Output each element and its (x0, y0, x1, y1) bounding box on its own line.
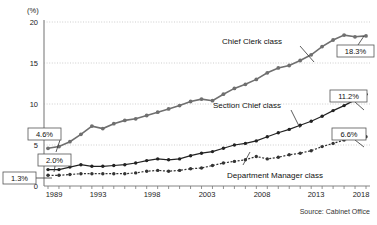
data-point (254, 78, 258, 82)
data-point (233, 143, 236, 146)
data-point (145, 159, 148, 162)
data-point (287, 64, 291, 68)
data-point (277, 131, 280, 134)
y-tick-label-10: 10 (30, 100, 38, 109)
data-point (265, 71, 269, 75)
data-point (244, 142, 247, 145)
data-point (68, 173, 71, 176)
callout-label-11-2: 11.2% (338, 92, 359, 101)
data-point (46, 146, 50, 150)
data-point (331, 109, 334, 112)
data-point (123, 172, 126, 175)
data-point (101, 172, 104, 175)
line-chart-svg: (%) 20 15 10 5 0 1989 1993 1998 2003 200… (0, 0, 377, 225)
data-point (79, 132, 83, 136)
data-point (309, 53, 313, 57)
x-tick-label-2003: 2003 (199, 190, 216, 199)
y-axis-unit-label: (%) (27, 6, 39, 15)
callout-label-4-6: 4.6% (36, 130, 53, 139)
y-tick-label-15: 15 (30, 59, 38, 68)
data-point (123, 119, 127, 123)
data-point (200, 152, 203, 155)
callout-label-2-0: 2.0% (46, 156, 63, 165)
x-tick-label-2013: 2013 (308, 190, 325, 199)
data-point (46, 174, 49, 177)
data-point (167, 107, 171, 111)
data-point (266, 135, 269, 138)
data-point (320, 45, 324, 49)
callout-label-6-6: 6.6% (340, 130, 357, 139)
data-point (101, 165, 104, 168)
data-point (145, 114, 149, 118)
data-point (342, 33, 346, 37)
data-point (320, 115, 323, 118)
data-point (299, 152, 302, 155)
data-point (46, 168, 49, 171)
data-point (189, 167, 192, 170)
data-point (310, 149, 313, 152)
data-point (222, 161, 225, 164)
series-label-department-manager: Department Manager class (227, 171, 323, 180)
chart-container: (%) 20 15 10 5 0 1989 1993 1998 2003 200… (0, 0, 377, 225)
data-point (288, 128, 291, 131)
data-point (233, 87, 237, 91)
data-point (167, 158, 170, 161)
x-tick-label-1998: 1998 (144, 190, 161, 199)
data-point (112, 172, 115, 175)
data-point (222, 92, 226, 96)
x-tick-label-2018: 2018 (353, 190, 370, 199)
x-tick-label-1989: 1989 (46, 190, 63, 199)
data-point (68, 140, 72, 144)
data-point (57, 174, 60, 177)
data-point (90, 172, 93, 175)
data-point (79, 163, 82, 166)
data-point (364, 34, 368, 38)
data-point (211, 164, 214, 167)
data-point (134, 161, 137, 164)
callout-label-1-3: 1.3% (11, 174, 28, 183)
data-point (222, 147, 225, 150)
data-point (255, 155, 258, 158)
y-tick-label-20: 20 (30, 18, 38, 27)
callout-label-18-3: 18.3% (345, 47, 367, 56)
data-point (310, 120, 313, 123)
data-point (112, 164, 115, 167)
series-label-chief-clerk: Chief Clerk class (222, 37, 282, 46)
data-point (353, 35, 357, 39)
data-point (178, 157, 181, 160)
data-point (200, 166, 203, 169)
series-label-section-chief: Section Chief class (213, 101, 281, 110)
data-point (156, 110, 160, 114)
data-point (331, 142, 334, 145)
data-point (134, 171, 137, 174)
data-point (145, 170, 148, 173)
data-point (266, 157, 269, 160)
x-tick-label-2008: 2008 (254, 190, 271, 199)
data-point (189, 154, 192, 157)
data-point (167, 170, 170, 173)
data-point (90, 165, 93, 168)
data-point (255, 139, 258, 142)
data-point (211, 150, 214, 153)
data-point (342, 104, 345, 107)
data-point (244, 82, 248, 86)
data-point (134, 117, 138, 121)
data-point (101, 127, 105, 131)
data-point (156, 157, 159, 160)
data-point (112, 122, 116, 126)
data-point (79, 172, 82, 175)
data-point (200, 97, 204, 101)
x-tick-label-1993: 1993 (90, 190, 107, 199)
data-point (57, 168, 60, 171)
data-point (288, 153, 291, 156)
data-point (90, 124, 94, 128)
source-note: Source: Cabinet Office (300, 208, 370, 215)
y-tick-label-5: 5 (34, 141, 38, 150)
data-point (277, 156, 280, 159)
data-point (298, 59, 302, 63)
data-point (178, 169, 181, 172)
data-point (276, 66, 280, 70)
data-point (320, 145, 323, 148)
data-point (331, 38, 335, 42)
data-point (189, 100, 193, 104)
